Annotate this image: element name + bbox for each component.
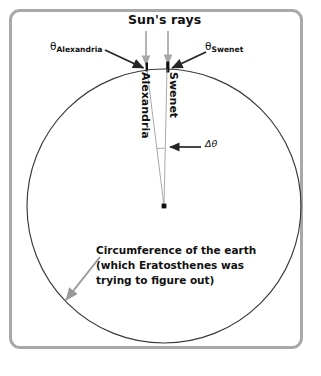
theta-alexandria-label: θAlexandria xyxy=(50,40,102,54)
theta-subscript-swenet: Swenet xyxy=(211,45,243,54)
earth-center-marker xyxy=(162,204,167,209)
diagram-canvas xyxy=(0,0,321,376)
theta-swenet-label: θSwenet xyxy=(205,40,243,54)
caption-line-1: Circumference of the earth xyxy=(96,243,256,258)
circumference-caption: Circumference of the earth (which Eratos… xyxy=(96,243,256,289)
delta-theta-label: Δθ xyxy=(205,138,217,149)
caption-line-2: (which Eratosthenes was xyxy=(96,258,256,273)
sun-rays-label: Sun's rays xyxy=(128,13,201,28)
pointer-arrow-theta-alexandria xyxy=(105,50,144,68)
pointer-arrow-theta-swenet xyxy=(172,52,206,68)
city-label-alexandria: Alexandria xyxy=(139,72,152,139)
theta-subscript-alexandria: Alexandria xyxy=(56,45,102,54)
caption-line-3: trying to figure out) xyxy=(96,273,256,288)
eratosthenes-diagram: Sun's rays θAlexandria θSwenet Alexandri… xyxy=(0,0,321,376)
city-label-swenet: Swenet xyxy=(167,72,180,118)
pointer-arrow-circumference xyxy=(66,257,100,300)
